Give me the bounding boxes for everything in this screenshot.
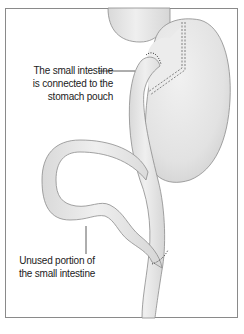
label-stomach-pouch-connection: The small intestine is connected to the … [33, 64, 113, 103]
label-line: the small intestine [17, 267, 97, 280]
gastric-bypass-illustration [0, 0, 244, 334]
label-line: The small intestine [33, 64, 113, 77]
label-unused-intestine: Unused portion of the small intestine [17, 254, 97, 280]
label-line: is connected to the [33, 77, 113, 90]
label-line: Unused portion of [17, 254, 97, 267]
label-line: stomach pouch [33, 90, 113, 103]
